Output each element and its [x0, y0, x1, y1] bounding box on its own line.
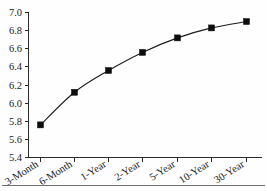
data-point-1-year: [106, 68, 112, 74]
x-axis-tick-labels: 3-Month 6-Month 1-Year 2-Year 5-Year 10-…: [3, 158, 246, 187]
y-axis-ticks: [25, 13, 29, 158]
data-point-6-month: [72, 89, 78, 95]
y-tick-label: 6.2: [9, 80, 22, 91]
chart-figure: 5.4 5.6 5.8 6.0 6.2 6.4 6.6 6.8 7.0 3-Mo…: [0, 0, 267, 191]
x-tick-label-2-year: 2-Year: [112, 158, 142, 182]
y-tick-label: 5.4: [9, 152, 23, 163]
x-tick-label-1-year: 1-Year: [78, 158, 108, 182]
y-tick-label: 6.0: [9, 98, 22, 109]
y-tick-label: 5.8: [9, 116, 22, 127]
y-tick-label: 6.6: [9, 43, 22, 54]
x-axis-ticks: [41, 158, 247, 163]
y-tick-label: 6.4: [9, 61, 23, 72]
axis-spines: [29, 13, 263, 158]
y-tick-label: 7.0: [9, 7, 22, 18]
data-point-5-year: [175, 35, 181, 41]
line-chart-plot: 5.4 5.6 5.8 6.0 6.2 6.4 6.6 6.8 7.0 3-Mo…: [0, 0, 267, 191]
y-axis-tick-labels: 5.4 5.6 5.8 6.0 6.2 6.4 6.6 6.8 7.0: [9, 7, 23, 163]
x-tick-label-30-year: 30-Year: [212, 158, 247, 185]
data-point-3-month: [38, 122, 44, 128]
y-tick-label: 6.8: [9, 25, 22, 36]
series-line-yield: [41, 22, 247, 125]
x-tick-label-5-year: 5-Year: [147, 158, 177, 182]
y-tick-label: 5.6: [9, 134, 22, 145]
series-markers-yield: [38, 19, 250, 128]
x-tick-label-10-year: 10-Year: [177, 158, 212, 185]
x-tick-label-6-month: 6-Month: [37, 158, 75, 187]
data-point-30-year: [244, 19, 250, 25]
data-point-10-year: [209, 25, 215, 31]
data-point-2-year: [140, 49, 146, 55]
